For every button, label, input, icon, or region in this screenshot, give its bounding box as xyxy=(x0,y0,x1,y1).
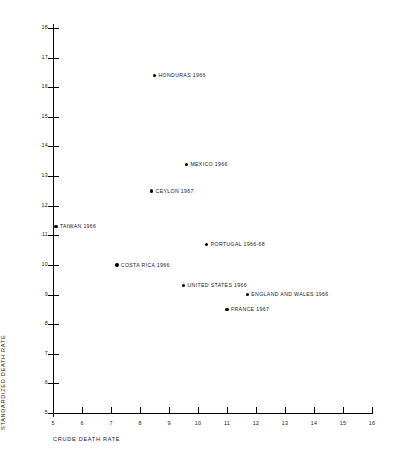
y-tick-label: 17 xyxy=(42,54,49,60)
y-tick-label: 8 xyxy=(45,320,48,326)
x-tick-label: 16 xyxy=(369,420,376,426)
y-tick-mark xyxy=(48,58,59,59)
y-tick-mark xyxy=(48,354,59,355)
y-tick-mark xyxy=(48,176,59,177)
x-axis-line xyxy=(53,413,373,414)
y-tick-mark xyxy=(48,206,59,207)
x-tick-label: 11 xyxy=(224,420,230,426)
data-point-marker[interactable] xyxy=(54,225,57,228)
y-tick-mark xyxy=(48,146,59,147)
data-point-marker[interactable] xyxy=(185,163,188,166)
data-point-label: UNITED STATES 1966 xyxy=(188,282,247,288)
data-point-marker[interactable] xyxy=(225,308,228,311)
y-tick-mark xyxy=(48,324,59,325)
x-tick-mark xyxy=(111,407,112,414)
y-tick-label: 16 xyxy=(42,83,49,89)
x-tick-label: 8 xyxy=(138,420,141,426)
x-tick-mark xyxy=(343,407,344,414)
x-tick-label: 15 xyxy=(340,420,347,426)
y-axis-title-text: STANDARDIZED DEATH RATE xyxy=(0,335,6,430)
data-point-label: MEXICO 1966 xyxy=(190,161,227,167)
data-point-marker[interactable] xyxy=(182,284,185,287)
x-tick-label: 14 xyxy=(311,420,318,426)
scatter-plot-figure: 18171615141312111098765 HONDURAS 1966MEX… xyxy=(0,0,404,465)
y-tick-label: 11 xyxy=(42,231,48,237)
x-tick-label: 7 xyxy=(109,420,112,426)
data-point-label: ENGLAND AND WALES 1966 xyxy=(251,291,328,297)
x-tick-mark xyxy=(227,407,228,414)
x-tick-label: 9 xyxy=(167,420,170,426)
y-tick-label: 14 xyxy=(42,142,49,148)
data-point-label: HONDURAS 1966 xyxy=(159,72,206,78)
y-tick-label: 5 xyxy=(45,409,48,415)
data-point-marker[interactable] xyxy=(246,293,249,296)
x-tick-mark xyxy=(256,407,257,414)
data-point-label: TAIWAN 1966 xyxy=(60,223,96,229)
plot-area: 18171615141312111098765 HONDURAS 1966MEX… xyxy=(53,28,372,413)
x-tick-label: 5 xyxy=(51,420,54,426)
x-tick-mark xyxy=(169,407,170,414)
x-tick-label: 10 xyxy=(195,420,202,426)
x-tick-mark xyxy=(82,407,83,414)
x-tick-mark xyxy=(140,407,141,414)
y-tick-label: 12 xyxy=(42,202,49,208)
data-point-marker[interactable] xyxy=(153,74,156,77)
y-tick-label: 18 xyxy=(42,24,49,30)
x-tick-mark xyxy=(372,407,373,414)
y-tick-label: 15 xyxy=(42,113,49,119)
x-axis-title: CRUDE DEATH RATE xyxy=(53,436,120,442)
data-point-label: CEYLON 1967 xyxy=(156,188,194,194)
y-tick-label: 13 xyxy=(42,172,49,178)
data-point-label: FRANCE 1967 xyxy=(231,306,269,312)
y-tick-mark xyxy=(48,28,59,29)
y-tick-mark xyxy=(48,117,59,118)
y-tick-label: 10 xyxy=(42,261,49,267)
x-tick-mark xyxy=(198,407,199,414)
y-tick-label: 6 xyxy=(45,379,48,385)
data-point-marker[interactable] xyxy=(115,263,118,266)
x-tick-mark xyxy=(285,407,286,414)
data-point-marker[interactable] xyxy=(205,243,208,246)
y-tick-label: 9 xyxy=(45,291,48,297)
y-tick-mark xyxy=(48,235,59,236)
data-point-marker[interactable] xyxy=(150,189,153,192)
y-tick-mark xyxy=(48,265,59,266)
y-tick-mark xyxy=(48,87,59,88)
y-tick-label: 7 xyxy=(45,350,48,356)
x-tick-mark xyxy=(314,407,315,414)
data-point-label: COSTA RICA 1966 xyxy=(121,262,170,268)
y-tick-mark xyxy=(48,295,59,296)
x-tick-mark xyxy=(53,407,54,414)
x-tick-label: 12 xyxy=(253,420,260,426)
x-tick-label: 13 xyxy=(282,420,289,426)
y-axis-title: STANDARDIZED DEATH RATE xyxy=(0,300,6,430)
data-point-label: PORTUGAL 1966-68 xyxy=(211,241,265,247)
y-tick-mark xyxy=(48,383,59,384)
x-tick-label: 6 xyxy=(80,420,83,426)
